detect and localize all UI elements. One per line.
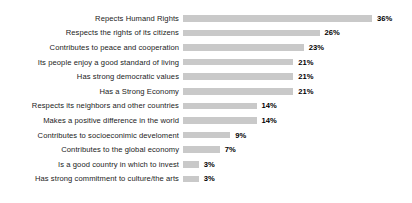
bar-track: 21% xyxy=(183,87,412,96)
bar-track: 23% xyxy=(183,43,412,52)
bar-category-label: Respects the rights of its citizens xyxy=(0,28,183,37)
bar xyxy=(183,73,293,80)
bar xyxy=(183,117,257,124)
bar xyxy=(183,161,199,168)
bar xyxy=(183,30,320,37)
bar-chart-row: Its people enjoy a good standard of livi… xyxy=(0,55,412,70)
bar-category-label: Has a Strong Economy xyxy=(0,87,183,96)
bar-chart-row: Has strong democratic values21% xyxy=(0,69,412,84)
bar-value-label: 21% xyxy=(293,72,313,81)
bar-value-label: 14% xyxy=(257,116,277,125)
bar-category-label: Its people enjoy a good standard of livi… xyxy=(0,58,183,67)
bar-track: 21% xyxy=(183,72,412,81)
bar-value-label: 21% xyxy=(293,58,313,67)
bar-category-label: Contributes to the global economy xyxy=(0,145,183,154)
bar-chart-row: Has strong commitment to culture/the art… xyxy=(0,172,412,187)
bar-chart-row: Has a Strong Economy21% xyxy=(0,84,412,99)
bar xyxy=(183,176,199,183)
bar-category-label: Has strong democratic values xyxy=(0,72,183,81)
bar-track: 14% xyxy=(183,116,412,125)
bar-chart-row: Makes a positive difference in the world… xyxy=(0,113,412,128)
bar-chart-row: Respects its neighbors and other countri… xyxy=(0,99,412,114)
bar-chart-row: Contributes to the global economy7% xyxy=(0,142,412,157)
bar-value-label: 23% xyxy=(304,43,324,52)
bar-chart-rows: Repects Humand Rights36%Respects the rig… xyxy=(0,11,412,186)
bar-value-label: 26% xyxy=(320,28,340,37)
bar-category-label: Contributes to socioeconimic develoment xyxy=(0,131,183,140)
bar-category-label: Contributes to peace and cooperation xyxy=(0,43,183,52)
bar-category-label: Repects Humand Rights xyxy=(0,14,183,23)
bar-value-label: 21% xyxy=(293,87,313,96)
bar-value-label: 7% xyxy=(220,145,236,154)
bar-value-label: 3% xyxy=(199,160,215,169)
bar-category-label: Is a good country in which to invest xyxy=(0,160,183,169)
bar-category-label: Respects its neighbors and other countri… xyxy=(0,101,183,110)
bar-track: 9% xyxy=(183,131,412,140)
bar xyxy=(183,132,230,139)
bar-value-label: 9% xyxy=(230,131,246,140)
bar-track: 26% xyxy=(183,28,412,37)
bar-category-label: Has strong commitment to culture/the art… xyxy=(0,174,183,183)
bar xyxy=(183,15,372,22)
bar-chart-row: Contributes to socioeconimic develoment9… xyxy=(0,128,412,143)
bar-chart: Repects Humand Rights36%Respects the rig… xyxy=(0,0,412,203)
bar xyxy=(183,44,304,51)
bar-track: 14% xyxy=(183,101,412,110)
bar xyxy=(183,146,220,153)
bar-track: 3% xyxy=(183,174,412,183)
bar-chart-row: Contributes to peace and cooperation23% xyxy=(0,40,412,55)
bar-track: 21% xyxy=(183,58,412,67)
bar-value-label: 14% xyxy=(257,101,277,110)
bar-track: 36% xyxy=(183,14,412,23)
bar-chart-row: Respects the rights of its citizens26% xyxy=(0,26,412,41)
bar-chart-row: Repects Humand Rights36% xyxy=(0,11,412,26)
bar xyxy=(183,59,293,66)
bar xyxy=(183,88,293,95)
bar-chart-row: Is a good country in which to invest3% xyxy=(0,157,412,172)
bar-track: 3% xyxy=(183,160,412,169)
bar-value-label: 36% xyxy=(372,14,392,23)
bar xyxy=(183,103,257,110)
bar-category-label: Makes a positive difference in the world xyxy=(0,116,183,125)
bar-value-label: 3% xyxy=(199,174,215,183)
bar-track: 7% xyxy=(183,145,412,154)
